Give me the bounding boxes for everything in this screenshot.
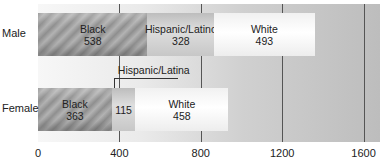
segment-label: White	[168, 98, 195, 110]
plot-area: Black538Hispanic/Latino328White493Black3…	[38, 4, 380, 142]
segment-value: 538	[84, 35, 102, 47]
x-tick-label: 0	[35, 147, 41, 159]
x-tick-label: 1600	[351, 147, 375, 159]
segment-white: White458	[135, 88, 228, 131]
annotation-leader	[114, 78, 115, 88]
segment-hispanic-latino: Hispanic/Latino328	[147, 13, 214, 56]
segment-black: Black363	[38, 88, 112, 131]
segment-value: 458	[173, 110, 191, 122]
x-tick-label: 800	[192, 147, 210, 159]
annotation-underline	[114, 78, 178, 79]
segment-value: 115	[115, 104, 132, 116]
segment-label: Black	[62, 98, 88, 110]
x-tick-label: 1200	[270, 147, 294, 159]
segment-hispanic-latino: 115	[112, 88, 135, 131]
segment-label: Black	[80, 23, 106, 35]
segment-black: Black538	[38, 13, 147, 56]
segment-value: 493	[256, 35, 274, 47]
segment-value: 328	[172, 35, 190, 47]
annotation-label: Hispanic/Latina	[118, 64, 190, 76]
segment-label: White	[251, 23, 278, 35]
segment-value: 363	[66, 110, 84, 122]
segment-white: White493	[214, 13, 314, 56]
category-label: Female	[2, 102, 39, 114]
gridline	[364, 4, 365, 142]
segment-label: Hispanic/Latino	[145, 23, 217, 35]
category-label: Male	[2, 27, 26, 39]
x-tick-label: 400	[110, 147, 128, 159]
